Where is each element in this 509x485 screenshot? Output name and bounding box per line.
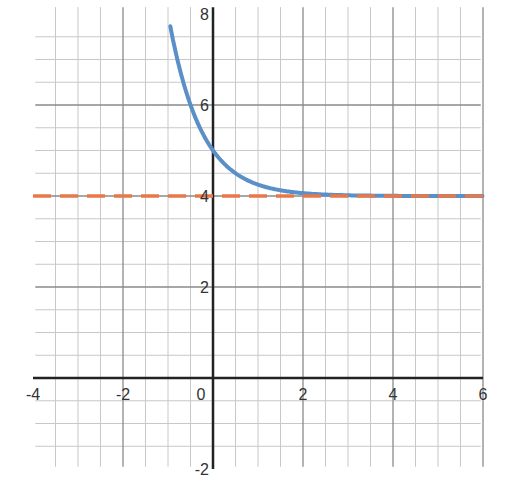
- y-tick-label: -2: [195, 461, 209, 478]
- chart: -4-20246-22468: [0, 0, 509, 485]
- x-tick-label: 0: [197, 386, 206, 403]
- y-tick-label: 8: [200, 6, 209, 23]
- x-tick-label: 2: [299, 386, 308, 403]
- exponential-curve: [170, 26, 482, 196]
- y-tick-label: 6: [200, 97, 209, 114]
- x-tick-label: 6: [479, 386, 488, 403]
- y-tick-label: 2: [200, 279, 209, 296]
- y-tick-label: 4: [200, 188, 209, 205]
- x-tick-label: 4: [389, 386, 398, 403]
- x-tick-label: -4: [26, 386, 40, 403]
- minor-grid: [35, 7, 481, 467]
- x-tick-label: -2: [116, 386, 130, 403]
